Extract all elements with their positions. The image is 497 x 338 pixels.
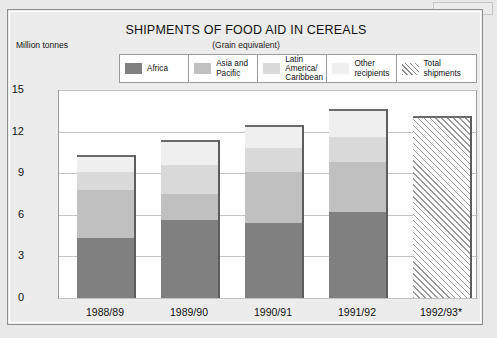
other-recipients-swatch [332, 63, 349, 74]
chart-title: SHIPMENTS OF FOOD AID IN CEREALS [8, 23, 484, 37]
y-tick-label: 9 [0, 166, 24, 178]
legend-label-latin-america: Latin America/ Caribbean [285, 55, 326, 83]
x-tick-label: 1992/93* [396, 306, 486, 318]
bar-segment[interactable] [77, 155, 134, 172]
legend-item-latin-america[interactable]: Latin America/ Caribbean [258, 55, 327, 82]
bar-segment[interactable] [161, 220, 218, 298]
y-axis-unit-label: Million tonnes [16, 40, 68, 50]
y-tick-label: 3 [0, 249, 24, 261]
x-tick-label: 1989/90 [144, 306, 234, 318]
legend-label-total-shipments: Total shipments [424, 59, 476, 77]
bar-segment[interactable] [329, 212, 386, 298]
bar-segment[interactable] [245, 223, 302, 298]
bar-segment[interactable] [161, 165, 218, 194]
bar-segment[interactable] [245, 172, 302, 223]
chart-outer-frame: SHIPMENTS OF FOOD AID IN CEREALS (Grain … [7, 9, 483, 325]
africa-swatch [125, 63, 142, 74]
legend-item-total-shipments[interactable]: Total shipments [397, 55, 476, 82]
asia-pacific-swatch [194, 63, 211, 74]
legend-label-asia-pacific: Asia and Pacific [216, 59, 257, 77]
stacked-bar[interactable] [77, 155, 134, 298]
y-tick-label: 12 [0, 125, 24, 137]
legend-item-africa[interactable]: Africa [120, 55, 189, 82]
y-tick-label: 6 [0, 208, 24, 220]
chart-figure: SHIPMENTS OF FOOD AID IN CEREALS (Grain … [0, 0, 497, 338]
bar-segment[interactable] [77, 190, 134, 238]
stacked-bar[interactable] [329, 109, 386, 298]
stacked-bar[interactable] [161, 140, 218, 298]
legend-label-other-recipients: Other recipients [354, 59, 389, 77]
bar-segment[interactable] [245, 148, 302, 172]
bar-segment[interactable] [77, 172, 134, 190]
bar-segment[interactable] [161, 194, 218, 220]
x-tick-label: 1988/89 [60, 306, 150, 318]
y-tick-label: 15 [0, 83, 24, 95]
bar-segment[interactable] [161, 140, 218, 165]
bar-segment[interactable] [245, 125, 302, 148]
x-tick-label: 1991/92 [312, 306, 402, 318]
bar-series-container [58, 90, 477, 298]
stacked-bar[interactable] [245, 125, 302, 298]
chart-subtitle: (Grain equivalent) [8, 40, 484, 50]
y-tick-label: 0 [0, 291, 24, 303]
latin-america-swatch [263, 63, 280, 74]
bar-segment[interactable] [329, 162, 386, 212]
x-tick-label: 1990/91 [228, 306, 318, 318]
bar-segment[interactable] [77, 238, 134, 298]
legend-label-africa: Africa [147, 64, 168, 73]
total-shipments-hatch-swatch [402, 63, 419, 75]
gridline [59, 298, 478, 299]
bar-segment[interactable] [329, 109, 386, 137]
bar-segment[interactable] [329, 137, 386, 162]
legend-item-asia-pacific[interactable]: Asia and Pacific [189, 55, 258, 82]
legend-item-other-recipients[interactable]: Other recipients [327, 55, 396, 82]
total-shipments-bar[interactable] [413, 116, 470, 298]
chart-legend: Africa Asia and Pacific Latin America/ C… [119, 54, 477, 83]
